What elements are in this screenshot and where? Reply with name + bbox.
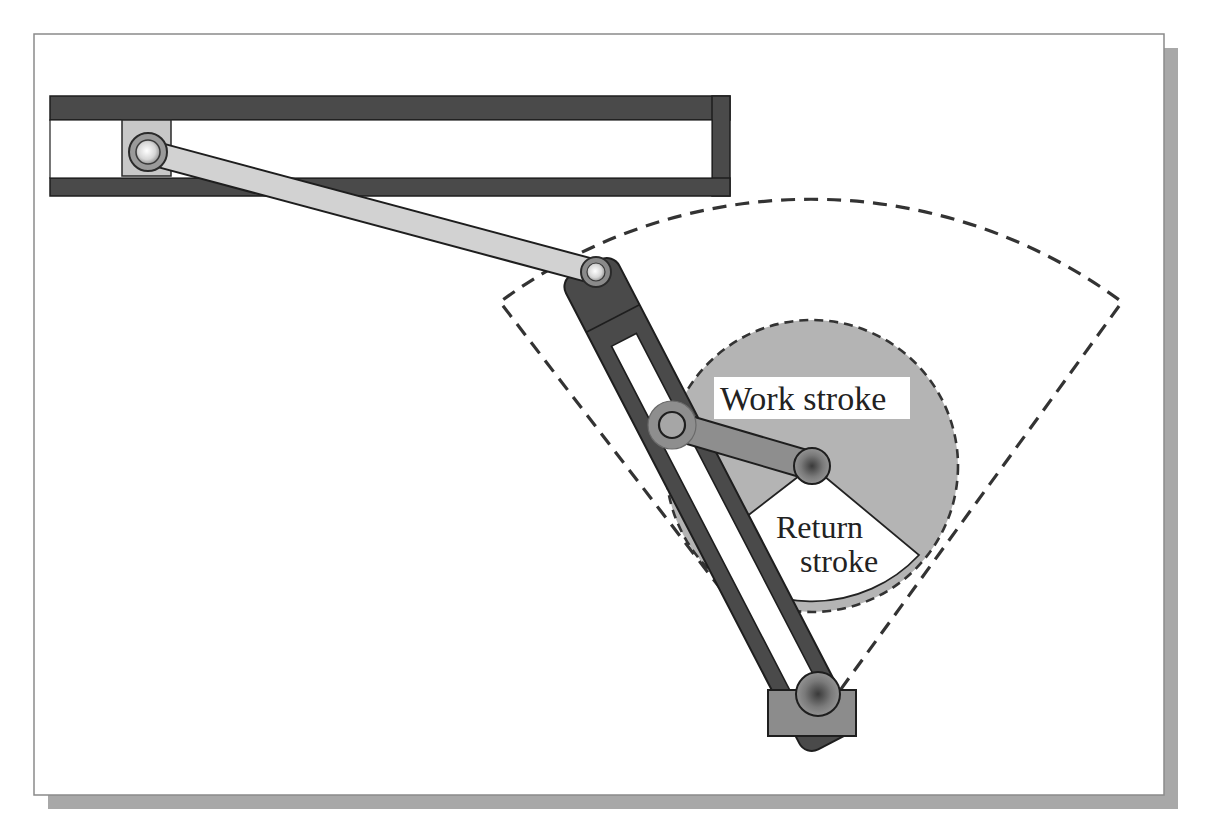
- work-stroke-text: Work stroke: [720, 380, 886, 417]
- return-stroke-text-line2: stroke: [800, 543, 878, 579]
- slider-pin: [129, 133, 167, 171]
- return-stroke-text-line1: Return: [776, 509, 863, 545]
- lever-ground-pivot: [796, 672, 840, 716]
- crank-pivot: [794, 448, 830, 484]
- crank-pin: [659, 412, 685, 438]
- diagram-canvas: Work stroke Return stroke: [0, 0, 1215, 831]
- work-stroke-label: Work stroke: [714, 377, 910, 419]
- lever-top-pin: [581, 257, 611, 287]
